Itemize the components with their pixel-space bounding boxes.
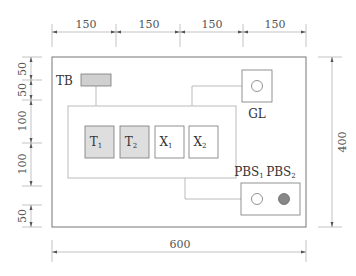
dim-left-3: 100 (16, 111, 29, 132)
pushbutton-box (241, 183, 300, 215)
dim-left-4: 100 (16, 154, 29, 175)
pbs1-button-icon (252, 194, 263, 205)
dim-top-2: 150 (139, 18, 160, 31)
panel-layout-diagram: 150 150 150 150 50 50 100 100 50 (0, 0, 356, 276)
terminal-block (81, 74, 111, 86)
gl-label: GL (248, 107, 266, 121)
dim-left-5: 50 (16, 209, 29, 223)
tb-label: TB (56, 74, 73, 88)
dim-bottom: 600 (170, 238, 191, 251)
gl-lamp-icon (252, 81, 263, 92)
dim-top-1: 150 (76, 18, 97, 31)
pbs2-button-icon (279, 194, 290, 205)
left-dimension-arrows (30, 57, 33, 227)
dim-top-3: 150 (202, 18, 223, 31)
dim-top-4: 150 (265, 18, 286, 31)
dim-right: 400 (336, 132, 349, 153)
left-dimension (22, 57, 42, 227)
dim-left-1: 50 (16, 62, 29, 76)
dim-left-2: 50 (16, 83, 29, 97)
